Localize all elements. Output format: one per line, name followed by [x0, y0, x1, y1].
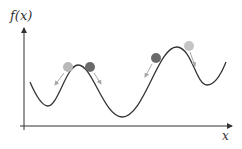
ball-light: [63, 62, 73, 72]
ball-light: [184, 41, 194, 51]
arrow-right-down-icon: [94, 73, 101, 84]
arrow-left-down-icon: [55, 73, 64, 85]
arrow-left-down-icon: [145, 64, 152, 77]
ball-dark: [85, 62, 95, 72]
x-axis-label: x: [222, 129, 229, 143]
y-axis-label: f(x): [9, 8, 32, 23]
diagram-canvas: f(x) x: [0, 0, 242, 149]
ball-dark: [151, 53, 161, 63]
function-curve: [30, 47, 226, 117]
